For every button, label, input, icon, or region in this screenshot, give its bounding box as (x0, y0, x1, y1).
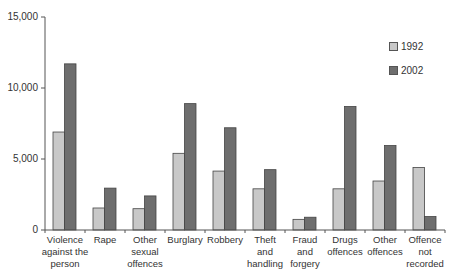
bar-2002 (65, 64, 77, 230)
bar-1992 (333, 189, 345, 230)
legend-item-2002: 2002 (389, 65, 423, 76)
legend-swatch-1992 (389, 42, 398, 51)
bar-2002 (185, 104, 197, 230)
bar-1992 (293, 219, 305, 230)
bar-2002 (145, 196, 157, 230)
bar-2002 (265, 170, 277, 230)
bar-1992 (373, 181, 385, 230)
y-tick-label: 15,000 (0, 11, 38, 22)
bar-2002 (305, 217, 317, 230)
bar-chart: 05,00010,00015,000 Violenceagainst thepe… (0, 0, 455, 280)
legend-swatch-2002 (389, 66, 398, 75)
bar-1992 (133, 209, 145, 230)
bar-1992 (53, 132, 65, 230)
y-tick-label: 0 (0, 224, 38, 235)
legend-label-2002: 2002 (401, 65, 423, 76)
bar-2002 (385, 146, 397, 230)
bar-2002 (425, 217, 437, 230)
bar-2002 (105, 188, 117, 230)
bar-1992 (213, 171, 225, 230)
x-tick-label: Offencenotrecorded (401, 234, 449, 270)
bar-2002 (345, 106, 357, 230)
legend-item-1992: 1992 (389, 41, 423, 52)
bar-1992 (173, 153, 185, 230)
legend-label-1992: 1992 (401, 41, 423, 52)
bar-1992 (93, 208, 105, 230)
bar-1992 (253, 189, 265, 230)
bar-2002 (225, 128, 237, 230)
y-tick-label: 10,000 (0, 82, 38, 93)
bar-1992 (413, 168, 425, 230)
y-tick-label: 5,000 (0, 153, 38, 164)
